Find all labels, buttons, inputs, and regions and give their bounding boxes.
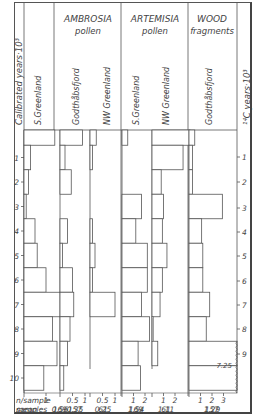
- bar-segment: [189, 145, 192, 170]
- bar-segment: [60, 292, 74, 317]
- scale-tick-label: 1: [131, 396, 136, 405]
- right-tick-label: 9: [242, 350, 247, 359]
- bar-segment: [90, 292, 115, 317]
- bar-segment: [24, 341, 57, 366]
- bar-segment: [189, 292, 210, 317]
- samples-value: 157: [205, 405, 220, 414]
- bar-segment: [122, 194, 142, 219]
- scale-tick-label: 1: [161, 396, 166, 405]
- right-tick-label: 5: [242, 252, 247, 261]
- bar-segment: [60, 145, 65, 170]
- bar-segment: [152, 170, 161, 195]
- bar-segment: [60, 130, 83, 145]
- pollen-diagram: AMBROSIApollenARTEMISIApollenWOODfragmen…: [0, 0, 261, 420]
- artemisia-title: ARTEMISIA: [130, 14, 180, 24]
- left-tick-label: 6: [14, 276, 19, 285]
- right-axis-label: ¹⁴C years·10³: [242, 69, 252, 125]
- bar-segment: [122, 317, 150, 342]
- bar-segment: [152, 341, 158, 366]
- bar-segment: [60, 219, 68, 244]
- right-tick-label: 6: [242, 277, 247, 286]
- bar-segment: [24, 145, 31, 170]
- samples-value: 61: [161, 405, 171, 414]
- bar-segment: [152, 243, 167, 268]
- row-label-samples: samples: [16, 405, 47, 414]
- bar-segment: [24, 194, 26, 219]
- bar-segment: [24, 366, 44, 391]
- left-tick-label: 9: [14, 350, 19, 359]
- scale-tick-label: 2: [143, 396, 148, 405]
- wood-title: WOOD: [197, 14, 227, 24]
- bar-segment: [189, 243, 203, 268]
- right-tick-label: 1: [242, 153, 247, 162]
- bar-segment: [122, 243, 147, 268]
- col-label-godthabsfjord: Godthåbsfjord: [204, 67, 214, 125]
- bar-segment: [90, 219, 93, 244]
- bar-segment: [60, 366, 64, 391]
- left-tick-label: 4: [14, 227, 19, 236]
- bar-segment: [152, 292, 160, 317]
- bar-segment: [189, 268, 203, 293]
- wood-subtitle: fragments: [190, 26, 234, 36]
- col-label-nw-greenland: NW Greenland: [162, 66, 171, 125]
- left-axis-label: Calibrated years·10³: [14, 37, 24, 125]
- bar-segment: [60, 341, 68, 366]
- right-tick-label: 4: [242, 228, 247, 237]
- left-tick-label: 1: [14, 154, 19, 163]
- ambrosia-subtitle: pollen: [74, 26, 101, 36]
- col-label-godthabsfjord: Godthåbsfjord: [71, 67, 81, 125]
- wood-break-label: 7.25: [216, 362, 232, 370]
- scale-tick-label: 3: [221, 396, 226, 405]
- scale-tick-label: 0.5: [97, 396, 109, 405]
- ambrosia-title: AMBROSIA: [63, 14, 112, 24]
- left-tick-label: 8: [14, 325, 19, 334]
- bar-segment: [24, 268, 46, 293]
- bar-segment: [60, 170, 71, 195]
- scale-tick-label: 1: [113, 396, 118, 405]
- bar-segment: [122, 366, 140, 391]
- samples-value: 157: [68, 405, 83, 414]
- bar-segment: [90, 268, 93, 293]
- samples-value: 169: [53, 405, 68, 414]
- bar-segment: [152, 130, 190, 145]
- left-tick-label: 3: [14, 203, 19, 212]
- right-tick-label: 8: [242, 325, 247, 334]
- bar-segment: [152, 317, 153, 342]
- right-tick-label: 2: [242, 178, 247, 187]
- bar-segment: [60, 317, 70, 342]
- samples-value: 169: [129, 405, 144, 414]
- bar-segment: [122, 268, 147, 293]
- bar-segment: [122, 219, 136, 244]
- col-label-s-greenland: S.Greenland: [132, 75, 141, 125]
- scale-tick-label: 1: [83, 396, 88, 405]
- bar-segment: [90, 130, 96, 145]
- left-tick-label: 2: [14, 178, 19, 187]
- bar-segment: [189, 317, 206, 342]
- bar-segment: [122, 341, 138, 366]
- scale-tick-label: 2: [173, 396, 178, 405]
- bar-segment: [60, 243, 63, 268]
- left-tick-label: 7: [14, 301, 19, 310]
- bar-segment: [152, 145, 183, 170]
- scale-tick-label: 0.5: [67, 396, 79, 405]
- bar-segment: [189, 170, 192, 195]
- artemisia-subtitle: pollen: [141, 26, 168, 36]
- samples-value: 61: [98, 405, 108, 414]
- bar-segment: [152, 219, 162, 244]
- bar-segment: [60, 268, 73, 293]
- right-tick-label: 7: [242, 301, 247, 310]
- chart-plot: AMBROSIApollenARTEMISIApollenWOODfragmen…: [0, 0, 261, 420]
- bar-segment: [90, 243, 95, 268]
- row-label-n-sample: n/sample: [16, 396, 51, 405]
- bar-segment: [24, 219, 35, 244]
- bar-segment: [189, 219, 202, 244]
- bar-segment: [24, 130, 55, 145]
- col-label-s-greenland: S.Greenland: [34, 75, 43, 125]
- left-tick-label: 10: [9, 374, 19, 383]
- bar-segment: [122, 130, 128, 145]
- bar-segment: [90, 145, 93, 170]
- bar-segment: [152, 268, 162, 293]
- bar-segment: [24, 317, 53, 342]
- bar-segment: [24, 243, 37, 268]
- scale-tick-label: 1: [198, 396, 203, 405]
